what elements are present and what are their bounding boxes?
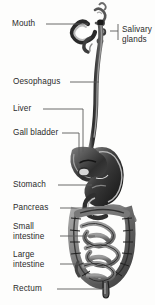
label-large-intestine: Large intestine	[13, 250, 44, 269]
label-stomach: Stomach	[13, 180, 46, 190]
label-salivary-glands: Salivary glands	[122, 25, 152, 44]
mouth-organ	[72, 21, 95, 52]
label-small-intestine: Small intestine	[13, 222, 44, 241]
label-gall-bladder: Gall bladder	[13, 128, 58, 138]
label-pancreas: Pancreas	[13, 203, 48, 213]
rectum-organ	[103, 281, 109, 298]
label-oesophagus: Oesophagus	[13, 77, 60, 87]
digestive-system-figure: Mouth Salivary glands Oesophagus Liver G…	[0, 0, 155, 305]
label-rectum: Rectum	[13, 284, 42, 294]
label-mouth: Mouth	[12, 19, 35, 29]
label-liver: Liver	[13, 104, 31, 114]
